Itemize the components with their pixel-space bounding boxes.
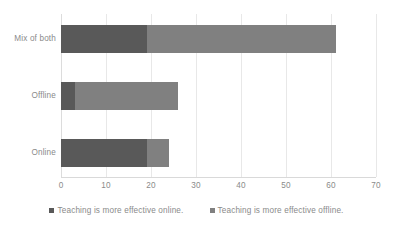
bar-offline [61, 82, 178, 110]
bar-segment-online [61, 139, 147, 167]
legend-label-offline: Teaching is more effective offline. [218, 206, 344, 215]
legend-item-offline[interactable]: Teaching is more effective offline. [210, 206, 344, 215]
y-axis-label-mix-of-both: Mix of both [14, 34, 56, 43]
legend-item-online[interactable]: Teaching is more effective online. [49, 206, 183, 215]
legend-swatch-icon [210, 208, 215, 213]
chart-legend: Teaching is more effective online. Teach… [0, 206, 393, 215]
x-tick-label-10: 10 [91, 181, 121, 190]
y-axis-label-online: Online [31, 148, 56, 157]
x-tick-label-60: 60 [316, 181, 346, 190]
x-tick-label-70: 70 [361, 181, 391, 190]
x-tick-label-20: 20 [136, 181, 166, 190]
legend-label-online: Teaching is more effective online. [57, 206, 183, 215]
x-tick-label-40: 40 [226, 181, 256, 190]
bar-segment-offline [147, 139, 170, 167]
plot-area [61, 14, 376, 177]
x-axis-line [61, 177, 376, 178]
y-axis-label-offline: Offline [31, 91, 56, 100]
gridline-70 [376, 14, 377, 177]
bar-segment-online [61, 25, 147, 53]
x-tick-label-30: 30 [181, 181, 211, 190]
x-tick-label-0: 0 [46, 181, 76, 190]
chart-container: Mix of both Offline Online 0 10 20 30 40… [0, 0, 393, 231]
bar-segment-offline [147, 25, 336, 53]
bar-online [61, 139, 169, 167]
x-tick-label-50: 50 [271, 181, 301, 190]
bar-mix-of-both [61, 25, 336, 53]
bar-segment-online [61, 82, 75, 110]
legend-swatch-icon [49, 208, 54, 213]
bar-segment-offline [75, 82, 179, 110]
